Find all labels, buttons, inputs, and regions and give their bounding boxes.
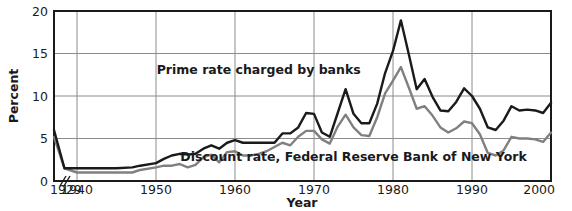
x-tick-label: 2000 bbox=[523, 182, 555, 197]
interest-rate-line-chart: 19291940195019601970198019902000 0510152… bbox=[0, 0, 572, 211]
x-tick-label: 1960 bbox=[219, 182, 251, 197]
x-axis-title: Year bbox=[286, 195, 319, 210]
discount-rate-label: Discount rate, Federal Reserve Bank of N… bbox=[180, 149, 527, 164]
x-tick-label: 1980 bbox=[377, 182, 409, 197]
y-tick-label: 20 bbox=[32, 4, 48, 19]
y-axis-title: Percent bbox=[6, 69, 21, 124]
y-tick-label: 5 bbox=[40, 131, 48, 146]
prime-rate-label: Prime rate charged by banks bbox=[157, 62, 361, 77]
x-tick-label: 1990 bbox=[456, 182, 488, 197]
x-tick-label: 1940 bbox=[61, 182, 93, 197]
x-tick-label: 1950 bbox=[140, 182, 172, 197]
chart-canvas: 19291940195019601970198019902000 0510152… bbox=[0, 0, 572, 211]
y-tick-label: 0 bbox=[40, 174, 48, 189]
y-tick-label: 15 bbox=[32, 46, 48, 61]
chart-background bbox=[0, 0, 572, 211]
y-tick-label: 10 bbox=[32, 89, 48, 104]
